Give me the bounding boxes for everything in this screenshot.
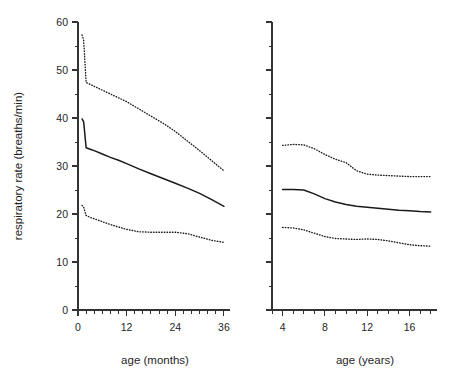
y-tick-label-20: 20	[56, 208, 68, 220]
y-tick-label-0: 0	[62, 304, 68, 316]
figure-background	[0, 0, 469, 383]
right-x-axis-title: age (years)	[336, 354, 394, 366]
right-x-tick-label-16: 16	[404, 321, 416, 333]
right-x-tick-label-4: 4	[280, 321, 286, 333]
y-tick-label-60: 60	[56, 16, 68, 28]
y-tick-label-50: 50	[56, 64, 68, 76]
left-x-tick-label-0: 0	[75, 321, 81, 333]
left-x-tick-label-36: 36	[218, 321, 230, 333]
left-x-axis-title: age (months)	[121, 354, 189, 366]
right-x-tick-label-12: 12	[361, 321, 373, 333]
y-tick-label-40: 40	[56, 112, 68, 124]
y-axis-title: respiratory rate (breaths/min)	[12, 92, 24, 240]
left-x-tick-label-12: 12	[121, 321, 133, 333]
chart-canvas: 0102030405060 0122436 age (months) respi…	[0, 0, 469, 383]
y-tick-label-10: 10	[56, 256, 68, 268]
left-x-tick-label-24: 24	[169, 321, 181, 333]
right-x-tick-label-8: 8	[322, 321, 328, 333]
respiratory-rate-centile-figure: 0102030405060 0122436 age (months) respi…	[0, 0, 469, 383]
y-tick-label-30: 30	[56, 160, 68, 172]
